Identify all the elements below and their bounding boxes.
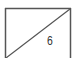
cell-number: 6: [47, 34, 53, 47]
diagonal-line: [6, 9, 70, 58]
diagonal-cell: 6: [0, 0, 77, 58]
cell-frame: [0, 0, 77, 58]
